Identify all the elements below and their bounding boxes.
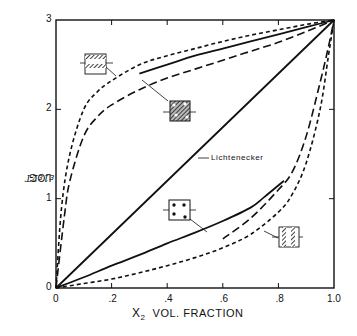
x-tick-label: .6 (220, 293, 228, 304)
series-line (139, 20, 334, 74)
dispersed-particles-dark-matrix-icon (142, 80, 196, 121)
x-axis-text: VOL. FRACTION (153, 307, 244, 319)
y-tick-label: 1 (46, 192, 52, 203)
x-tick-label: .2 (109, 293, 117, 304)
lichtenecker-label: Lichtenecker (211, 153, 264, 162)
x-axis-var: X (132, 306, 141, 320)
x-tick-label: 0 (53, 293, 59, 304)
x-tick-label: 1.0 (327, 293, 341, 304)
x-axis-label: X2 VOL. FRACTION (132, 306, 243, 320)
y-axis-symbol: ε1ε2T (8, 173, 72, 183)
y-tick-label: 0 (46, 281, 52, 292)
series-line (223, 20, 334, 239)
x-axis-subscript: 2 (141, 313, 146, 322)
y-tick-label: 2 (46, 102, 52, 113)
parallel-layers-icon (80, 54, 116, 76)
series-line (56, 181, 284, 288)
series-layers-icon (264, 227, 303, 247)
y-axis-label: LOG ε1ε2T (8, 128, 28, 188)
x-tick-label: .4 (164, 293, 172, 304)
dispersed-particles-light-matrix-icon (163, 200, 207, 232)
y-tick-label: 3 (46, 13, 52, 24)
x-tick-label: .8 (275, 293, 283, 304)
chart-plot (0, 0, 357, 336)
